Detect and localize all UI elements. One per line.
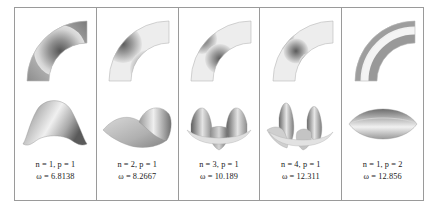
mode-label-1: n = 1, p = 1 ω = 6.8138: [15, 155, 96, 197]
mode-frequency-5: ω = 12.856: [364, 171, 402, 183]
surface-plot-4: [260, 90, 341, 155]
mode-panel-4: n = 4, p = 1 ω = 12.311: [260, 8, 342, 200]
mode-indices-1: n = 1, p = 1: [36, 159, 76, 171]
mode-indices-5: n = 1, p = 2: [363, 159, 403, 171]
surface-plot-1: [15, 90, 96, 155]
mode-indices-2: n = 2, p = 1: [117, 159, 157, 171]
contour-plot-5: [342, 8, 423, 90]
surface-plot-3: [179, 90, 260, 155]
mode-indices-4: n = 4, p = 1: [281, 159, 321, 171]
mode-frequency-2: ω = 8.2667: [118, 171, 156, 183]
surface-plot-5: [342, 90, 423, 155]
mode-panel-5: n = 1, p = 2 ω = 12.856: [342, 8, 423, 200]
mode-frequency-3: ω = 10.189: [200, 171, 238, 183]
mode-panel-2: n = 2, p = 1 ω = 8.2667: [97, 8, 179, 200]
contour-plot-3: [179, 8, 260, 90]
contour-plot-2: [97, 8, 178, 90]
mode-panel-3: n = 3, p = 1 ω = 10.189: [179, 8, 261, 200]
mode-frequency-1: ω = 6.8138: [36, 171, 74, 183]
mode-frequency-4: ω = 12.311: [282, 171, 320, 183]
surface-plot-2: [97, 90, 178, 155]
mode-label-4: n = 4, p = 1 ω = 12.311: [260, 155, 341, 197]
mode-indices-3: n = 3, p = 1: [199, 159, 239, 171]
mode-label-2: n = 2, p = 1 ω = 8.2667: [97, 155, 178, 197]
mode-shape-figure: n = 1, p = 1 ω = 6.8138: [14, 7, 424, 201]
mode-label-5: n = 1, p = 2 ω = 12.856: [342, 155, 423, 197]
mode-label-3: n = 3, p = 1 ω = 10.189: [179, 155, 260, 197]
contour-plot-4: [260, 8, 341, 90]
mode-panel-1: n = 1, p = 1 ω = 6.8138: [15, 8, 97, 200]
contour-plot-1: [15, 8, 96, 90]
